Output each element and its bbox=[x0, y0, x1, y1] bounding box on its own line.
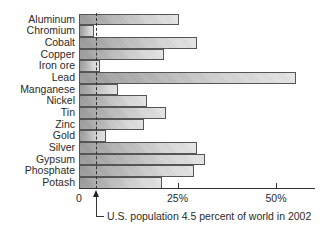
bar bbox=[79, 130, 106, 142]
bar bbox=[79, 177, 162, 189]
bar bbox=[79, 119, 144, 131]
category-label: Tin bbox=[61, 107, 75, 119]
bar bbox=[79, 49, 164, 61]
x-tick-label: 25% bbox=[167, 192, 188, 204]
x-tick bbox=[178, 183, 179, 188]
bar bbox=[79, 25, 94, 37]
bar bbox=[79, 72, 296, 84]
category-label: Lead bbox=[52, 72, 75, 84]
category-label: Silver bbox=[49, 142, 75, 154]
x-tick-label: 0 bbox=[76, 192, 82, 204]
bar bbox=[79, 95, 147, 107]
bar bbox=[79, 84, 118, 96]
x-axis bbox=[79, 188, 315, 189]
x-tick bbox=[276, 183, 277, 188]
annotation-leader-horizontal bbox=[96, 216, 104, 217]
bar-chart: AluminumChromiumCobaltCopperIron oreLead… bbox=[0, 0, 333, 234]
reference-line bbox=[96, 13, 97, 189]
category-label: Potash bbox=[42, 177, 75, 189]
category-label: Cobalt bbox=[45, 37, 75, 49]
bar bbox=[79, 14, 179, 26]
annotation-text: U.S. population 4.5 percent of world in … bbox=[107, 210, 311, 222]
bar bbox=[79, 60, 100, 72]
bar bbox=[79, 107, 166, 119]
bar bbox=[79, 154, 205, 166]
annotation-leader bbox=[96, 196, 97, 216]
x-tick-label: 50% bbox=[265, 192, 286, 204]
